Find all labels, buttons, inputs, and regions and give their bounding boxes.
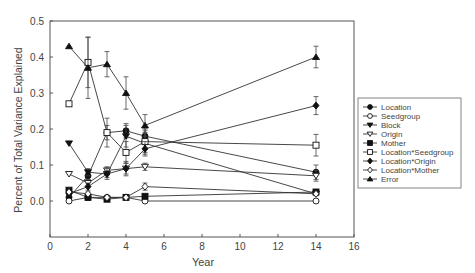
square-open-marker	[104, 130, 110, 136]
y-tick-label: 0.3	[30, 88, 44, 99]
legend: LocationSeedgroupBlockOriginMotherLocati…	[358, 98, 461, 188]
y-tick-label: 0.2	[30, 124, 44, 135]
legend-label: Seedgroup	[381, 112, 421, 121]
x-tick-label: 12	[272, 241, 284, 252]
series-line	[69, 131, 316, 198]
legend-label: Location*Seedgroup	[381, 148, 454, 157]
legend-label: Mother	[381, 139, 406, 148]
square-open-marker	[123, 149, 129, 155]
series-mother	[66, 187, 319, 202]
legend-label: Block	[381, 121, 402, 130]
circle-filled-marker	[368, 105, 373, 110]
y-tick-label: 0.5	[30, 16, 44, 27]
x-tick-label: 14	[310, 241, 322, 252]
plot-frame	[50, 21, 354, 237]
diamond-filled-marker	[85, 183, 91, 190]
legend-label: Location*Mother	[381, 166, 440, 175]
square-open-marker	[313, 142, 319, 148]
series-block	[66, 125, 320, 196]
legend-label: Location*Origin	[381, 157, 436, 166]
chart-figure: 0246810121416 0.00.10.20.30.40.5 Year Pe…	[0, 0, 475, 273]
y-tick-label: 0.1	[30, 160, 44, 171]
x-axis-label: Year	[192, 256, 215, 268]
x-tick-label: 10	[234, 241, 246, 252]
square-filled-marker	[368, 141, 373, 146]
triangle-up-filled-marker	[313, 54, 320, 60]
y-tick-label: 0.0	[30, 196, 44, 207]
legend-label: Error	[381, 175, 399, 184]
circle-open-marker	[368, 114, 373, 119]
diamond-open-marker	[142, 183, 148, 190]
triangle-up-filled-marker	[142, 122, 149, 128]
square-open-marker	[368, 150, 373, 155]
circle-open-marker	[66, 198, 72, 204]
series-line	[69, 106, 316, 194]
series-layer	[66, 37, 320, 204]
y-axis-label: Percent of Total Variance Explained	[12, 47, 24, 213]
series-location-x-seedgroup	[66, 37, 319, 163]
series-line	[69, 46, 316, 125]
series-location-x-origin	[66, 97, 319, 198]
triangle-down-open-marker	[66, 172, 73, 178]
square-open-marker	[66, 101, 72, 107]
triangle-up-filled-marker	[66, 43, 73, 49]
x-tick-label: 0	[47, 241, 53, 252]
legend-label: Origin	[381, 130, 402, 139]
triangle-up-filled-marker	[104, 61, 111, 66]
plot-area	[50, 21, 354, 237]
square-filled-marker	[142, 193, 148, 199]
series-line	[69, 62, 316, 152]
line-chart: 0246810121416 0.00.10.20.30.40.5 Year Pe…	[0, 0, 475, 273]
circle-open-marker	[313, 198, 319, 204]
series-origin	[66, 163, 320, 186]
diamond-filled-marker	[313, 102, 319, 109]
triangle-up-filled-marker	[123, 90, 130, 96]
x-tick-label: 2	[85, 241, 91, 252]
triangle-down-filled-marker	[66, 141, 73, 147]
x-tick-label: 16	[348, 241, 360, 252]
x-tick-label: 6	[161, 241, 167, 252]
legend-label: Location	[381, 103, 411, 112]
x-tick-label: 8	[199, 241, 205, 252]
x-tick-label: 4	[123, 241, 129, 252]
y-tick-label: 0.4	[30, 52, 44, 63]
